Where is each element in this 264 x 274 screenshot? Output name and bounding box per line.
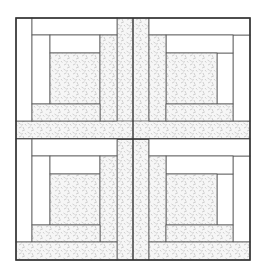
quilt-block-top-right	[149, 18, 250, 121]
quilt-block-bottom-right	[149, 139, 250, 260]
log-cabin-quilt-diagram	[0, 0, 264, 274]
quilt-block-top-left	[16, 18, 117, 121]
quilt-block-bottom-left	[16, 139, 117, 260]
